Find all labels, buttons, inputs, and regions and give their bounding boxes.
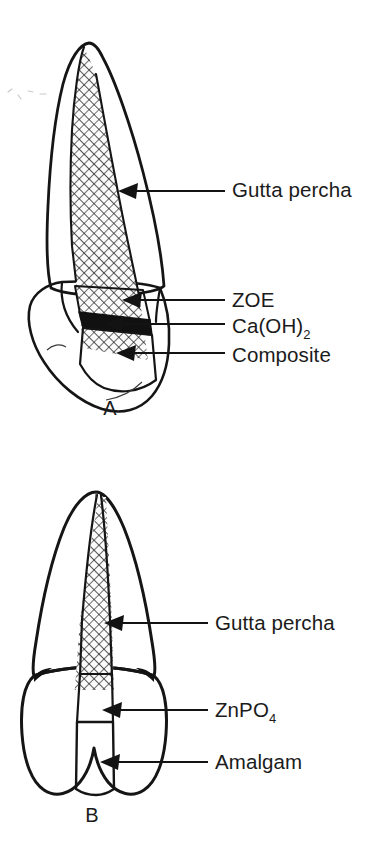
panel-b-leaders [100, 615, 208, 770]
label-amalgam-b: Amalgam [215, 750, 302, 773]
label-zinc-phosphate-b-base: ZnPO [215, 698, 269, 721]
label-calcium-hydroxide-a-subscript: 2 [303, 327, 310, 342]
tooth-a-labial-contour [47, 345, 66, 350]
figure-container: A Gutta percha ZOE Ca(OH)2 Composite [0, 0, 366, 841]
label-gutta-percha-b: Gutta percha [215, 611, 335, 634]
label-zinc-phosphate-b-subscript: 4 [269, 711, 276, 726]
panel-a-tooth-anterior: A [29, 35, 180, 419]
label-zinc-phosphate-b: ZnPO4 [215, 698, 276, 726]
dental-restoration-diagram: A Gutta percha ZOE Ca(OH)2 Composite [0, 0, 366, 841]
panel-a-letter: A [103, 397, 117, 419]
arrowhead-amalgam-b [100, 754, 120, 770]
label-calcium-hydroxide-a-base: Ca(OH) [232, 314, 303, 337]
label-gutta-percha-a: Gutta percha [232, 178, 352, 201]
panel-b-tooth-posterior: B [22, 490, 167, 826]
arrowhead-gutta-percha-a [118, 183, 138, 199]
panel-b-letter: B [85, 804, 99, 826]
label-calcium-hydroxide-a: Ca(OH)2 [232, 314, 311, 342]
label-zoe-a: ZOE [232, 288, 274, 311]
scan-artifact-marks [8, 89, 46, 99]
tooth-a-cervical-shoulder [156, 288, 160, 322]
label-composite-a: Composite [232, 343, 331, 366]
